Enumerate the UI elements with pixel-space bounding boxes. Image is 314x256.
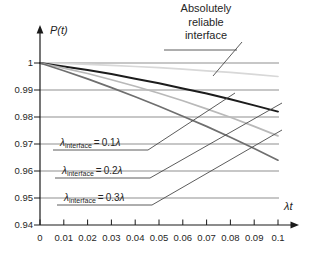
x-tick-label: 0.1 xyxy=(271,232,284,243)
annotation-line-3: interface xyxy=(156,29,256,43)
x-tick-label: 0.05 xyxy=(150,232,169,243)
y-axis-arrow-icon xyxy=(37,25,44,34)
annotation-line-2: reliable xyxy=(156,16,256,30)
annotation-lambda-interface-0p2: λinterface=0.2λ xyxy=(62,165,122,177)
y-tick-labels: 10.990.980.970.960.950.94 xyxy=(15,57,34,230)
y-tick-label: 0.99 xyxy=(15,84,34,95)
factor-value: 0.1 xyxy=(102,137,116,148)
factor-value: 0.3 xyxy=(106,192,120,203)
factor-value: 0.2 xyxy=(104,165,118,176)
x-tick-label: 0.06 xyxy=(174,232,193,243)
equals-sign: = xyxy=(96,165,102,176)
y-tick-label: 0.95 xyxy=(15,192,34,203)
x-tick-label: 0.09 xyxy=(245,232,264,243)
leader-absolutely-reliable-pointer xyxy=(213,42,242,76)
lambda-symbol-2: λ xyxy=(118,165,123,176)
x-tick-label: 0.07 xyxy=(197,232,216,243)
y-tick-label: 0.94 xyxy=(15,219,34,230)
y-tick-label: 1 xyxy=(28,57,33,68)
annotation-lambda-interface-0p3: λinterface=0.3λ xyxy=(64,192,124,204)
y-tick-label: 0.98 xyxy=(15,111,34,122)
x-tick-label: 0.02 xyxy=(78,232,97,243)
equals-sign: = xyxy=(98,192,104,203)
x-tick-label: 0.01 xyxy=(55,232,74,243)
x-tick-label: 0.03 xyxy=(102,232,121,243)
y-axis-title: P(t) xyxy=(50,24,68,36)
x-axis-arrow-icon xyxy=(291,222,300,229)
y-tick-label: 0.96 xyxy=(15,165,34,176)
equals-sign: = xyxy=(94,137,100,148)
annotation-absolutely-reliable: Absolutely reliable interface xyxy=(156,2,256,43)
x-tick-label: 0 xyxy=(37,232,42,243)
lambda-symbol-2: λ xyxy=(116,137,121,148)
lambda-subscript: interface xyxy=(65,142,92,149)
annotation-lambda-interface-0p1: λinterface=0.1λ xyxy=(60,137,120,149)
x-axis-title: λt xyxy=(284,200,292,212)
x-tick-labels: 00.010.020.030.040.050.060.070.080.090.1 xyxy=(37,232,284,243)
lambda-symbol-2: λ xyxy=(120,192,125,203)
y-tick-label: 0.97 xyxy=(15,138,34,149)
reliability-figure: 00.010.020.030.040.050.060.070.080.090.1… xyxy=(0,0,314,256)
lambda-subscript: interface xyxy=(67,170,94,177)
annotation-line-1: Absolutely xyxy=(156,2,256,16)
x-tick-label: 0.08 xyxy=(221,232,240,243)
lambda-subscript: interface xyxy=(69,197,96,204)
x-tick-label: 0.04 xyxy=(126,232,145,243)
